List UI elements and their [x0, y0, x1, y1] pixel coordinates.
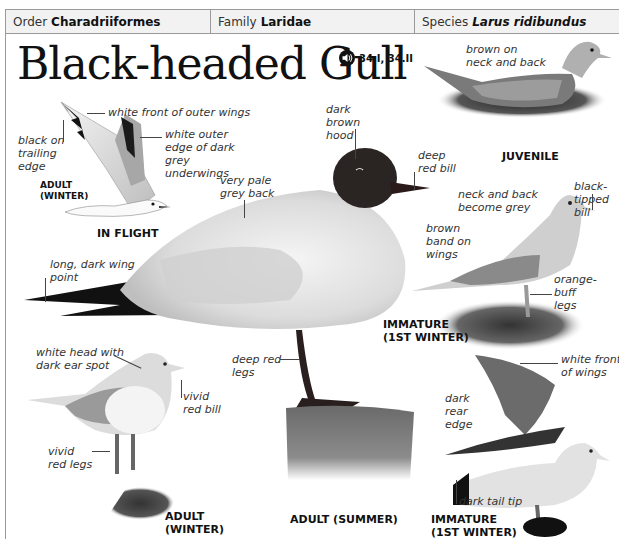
leader-line: [181, 380, 182, 398]
species-value: Larus ridibundus: [472, 15, 586, 29]
label-brown-on-neck-and-back: brown on neck and back: [466, 43, 546, 69]
species-cell: Species Larus ridibundus: [415, 10, 619, 33]
leader-line: [92, 451, 110, 452]
taxonomy-header: Order Charadriiformes Family Laridae Spe…: [5, 9, 619, 34]
leader-line: [87, 113, 105, 114]
leader-line: [63, 120, 64, 142]
leader-line: [530, 294, 552, 295]
label-vivid-red-legs: vivid red legs: [48, 445, 93, 471]
leader-line: [456, 480, 457, 504]
label-orange-buff-legs: orange-buff legs: [554, 273, 599, 312]
adult-winter-gull-illustration: [25, 350, 195, 520]
label-white-head-dark-ear-spot: white head with dark ear spot: [36, 346, 126, 372]
label-vivid-red-bill: vivid red bill: [183, 390, 228, 416]
label-brown-band-on-wings: brown band on wings: [426, 222, 486, 261]
label-long-dark-wing-point: long, dark wing point: [50, 258, 140, 284]
audio-reference[interactable]: 34.I, 34.II: [339, 50, 413, 66]
label-very-pale-grey-back: very pale grey back: [220, 174, 280, 200]
leader-line: [244, 200, 245, 218]
label-dark-rear-edge: dark rear edge: [445, 392, 490, 431]
leader-line: [355, 129, 356, 159]
species-label: Species: [422, 15, 468, 29]
order-value: Charadriiformes: [51, 15, 160, 29]
juvenile-caption: JUVENILE: [502, 150, 559, 163]
immature-flapping-caption: IMMATURE (1ST WINTER): [431, 513, 517, 539]
leader-line: [280, 359, 300, 360]
family-label: Family: [218, 15, 257, 29]
adult-summer-caption: ADULT (SUMMER): [290, 513, 398, 526]
label-white-front-of-wings: white front of wings: [561, 353, 619, 379]
speaker-icon[interactable]: [339, 50, 355, 66]
immature-standing-caption: IMMATURE (1ST WINTER): [383, 318, 469, 344]
audio-track-numbers: 34.I, 34.II: [359, 53, 413, 64]
label-dark-tail-tip: dark tail tip: [459, 495, 529, 508]
leader-line: [520, 363, 558, 364]
leader-line: [45, 278, 46, 302]
page-border: [5, 34, 6, 539]
label-dark-brown-hood: dark brown hood: [326, 103, 386, 142]
label-deep-red-bill: deep red bill: [418, 149, 463, 175]
label-black-tipped-bill: black-tipped bill: [574, 180, 619, 219]
order-label: Order: [13, 15, 47, 29]
immature-flapping-gull-illustration: [445, 355, 610, 535]
leader-line: [140, 137, 162, 138]
label-deep-red-legs: deep red legs: [232, 353, 282, 379]
leader-line: [592, 194, 593, 210]
adult-winter-caption: ADULT (WINTER): [165, 510, 224, 536]
label-neck-back-become-grey: neck and back become grey: [458, 188, 538, 214]
order-cell: Order Charadriiformes: [6, 10, 211, 33]
family-value: Laridae: [261, 15, 312, 29]
label-white-front-outer-wings: white front of outer wings: [108, 106, 250, 119]
family-cell: Family Laridae: [211, 10, 415, 33]
